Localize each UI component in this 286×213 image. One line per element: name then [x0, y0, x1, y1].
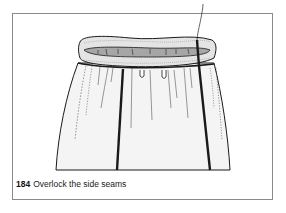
thread: [197, 4, 203, 40]
figure-number: 184: [16, 179, 30, 189]
caption-text: Overlock the side seams: [33, 179, 126, 189]
waistband-opening: [84, 47, 210, 57]
figure-caption: 184Overlock the side seams: [16, 179, 126, 189]
